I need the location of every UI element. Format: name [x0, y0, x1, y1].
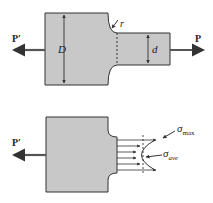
sigma-ave-pointer	[146, 155, 162, 157]
stress-distribution	[117, 135, 156, 175]
stress-concentration-diagram: D d r P′ P σmax σave P′	[0, 0, 213, 203]
sigma-max-pointer	[163, 131, 175, 138]
sigma-max-label: σmax	[177, 122, 195, 137]
free-body-bottom	[46, 117, 117, 192]
sigma-ave-label: σave	[163, 147, 178, 162]
load-label-right-top: P	[195, 33, 201, 44]
load-label-left-bottom: P′	[12, 137, 21, 148]
fillet-radius-pointer	[112, 20, 118, 28]
dimension-d-label: d	[152, 43, 158, 55]
dimension-D-label: D	[57, 43, 66, 55]
load-label-left-top: P′	[12, 33, 21, 44]
fillet-radius-label: r	[120, 18, 124, 29]
